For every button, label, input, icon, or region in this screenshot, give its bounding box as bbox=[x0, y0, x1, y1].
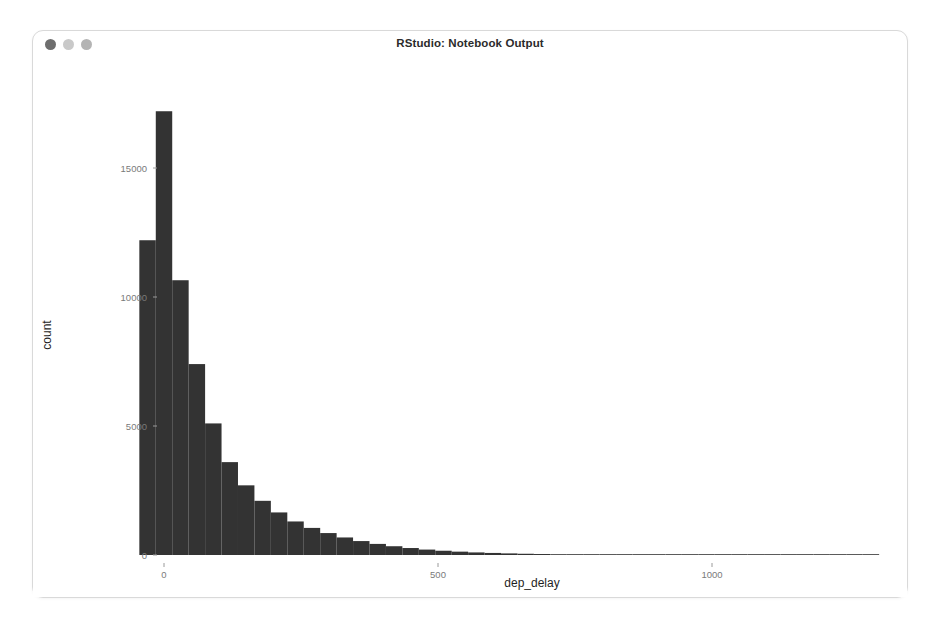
histogram-bar bbox=[435, 551, 451, 555]
histogram-bar bbox=[567, 554, 583, 555]
x-tick-label: 500 bbox=[430, 569, 446, 580]
histogram-bar bbox=[271, 512, 287, 555]
histogram-plot: 050001000015000 05001000 dep_delay count bbox=[33, 59, 907, 597]
window-title: RStudio: Notebook Output bbox=[33, 37, 907, 49]
histogram-bar bbox=[452, 552, 468, 555]
histogram-bar bbox=[337, 537, 353, 555]
window-titlebar[interactable]: RStudio: Notebook Output bbox=[33, 31, 907, 59]
histogram-bar bbox=[139, 240, 155, 555]
y-tick-label: 10000 bbox=[121, 292, 147, 303]
x-tick-label: 0 bbox=[161, 569, 166, 580]
histogram-bar bbox=[386, 546, 402, 555]
histogram-bar bbox=[402, 548, 418, 555]
histogram-bar bbox=[254, 501, 270, 555]
histogram-bar bbox=[698, 554, 714, 555]
histogram-bar bbox=[583, 554, 599, 555]
histogram-bar bbox=[189, 364, 205, 555]
histogram-bar bbox=[468, 552, 484, 555]
histogram-bar bbox=[633, 554, 649, 555]
histogram-bar bbox=[863, 554, 879, 555]
histogram-bar bbox=[682, 554, 698, 555]
histogram-bar bbox=[781, 554, 797, 555]
histogram-bar bbox=[222, 462, 238, 555]
histogram-bar bbox=[764, 554, 780, 555]
histogram-bar bbox=[485, 553, 501, 555]
x-tick-label: 1000 bbox=[701, 569, 722, 580]
histogram-bar bbox=[172, 280, 188, 555]
y-tick-label: 5000 bbox=[126, 421, 147, 432]
histogram-bar bbox=[600, 554, 616, 555]
histogram-bar bbox=[205, 423, 221, 555]
histogram-bar bbox=[287, 521, 303, 555]
histogram-bar bbox=[501, 553, 517, 555]
histogram-bar bbox=[731, 554, 747, 555]
histogram-bar bbox=[238, 485, 254, 555]
histogram-bar bbox=[534, 554, 550, 555]
y-tick-label: 0 bbox=[142, 550, 147, 561]
y-axis-title: count bbox=[40, 320, 54, 350]
histogram-bar bbox=[419, 550, 435, 555]
histogram-bar bbox=[665, 554, 681, 555]
histogram-bar bbox=[320, 533, 336, 555]
histogram-bar bbox=[304, 528, 320, 555]
histogram-bar bbox=[813, 554, 829, 555]
histogram-bar bbox=[797, 554, 813, 555]
plot-canvas: 050001000015000 05001000 dep_delay count bbox=[33, 59, 907, 597]
histogram-bar bbox=[830, 554, 846, 555]
histogram-bar bbox=[616, 554, 632, 555]
histogram-bar bbox=[517, 554, 533, 555]
histogram-bar bbox=[715, 554, 731, 555]
histogram-bar bbox=[353, 541, 369, 555]
histogram-bar bbox=[156, 111, 172, 555]
histogram-bar bbox=[550, 554, 566, 555]
histogram-bar bbox=[649, 554, 665, 555]
x-axis-title: dep_delay bbox=[504, 576, 559, 590]
histogram-bar bbox=[748, 554, 764, 555]
histogram-bar bbox=[370, 544, 386, 555]
histogram-bar bbox=[846, 554, 862, 555]
y-tick-label: 15000 bbox=[121, 163, 147, 174]
notebook-output-window: RStudio: Notebook Output 050001000015000… bbox=[32, 30, 908, 598]
